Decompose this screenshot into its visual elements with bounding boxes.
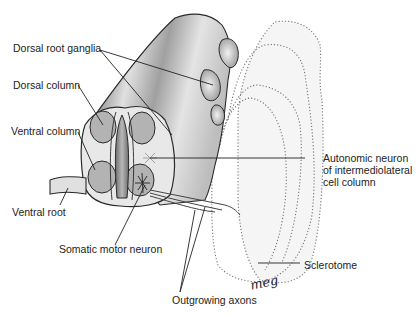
label-outgrowing-axons: Outgrowing axons <box>172 294 257 306</box>
label-somatic-motor-neuron: Somatic motor neuron <box>59 243 162 255</box>
dorsal-column-left <box>90 111 116 143</box>
ventral-column-left <box>88 161 116 193</box>
ventral-root <box>50 177 86 194</box>
label-ventral-root: Ventral root <box>12 206 66 218</box>
label-ventral-column: Ventral column <box>11 125 80 137</box>
ventral-column-right <box>126 164 154 196</box>
label-dorsal-root-ganglia: Dorsal root ganglia <box>13 42 101 54</box>
label-autonomic-neuron: Autonomic neuron of intermediolateral ce… <box>323 152 412 188</box>
label-dorsal-column: Dorsal column <box>13 79 80 91</box>
label-sclerotome: Sclerotome <box>304 259 357 271</box>
